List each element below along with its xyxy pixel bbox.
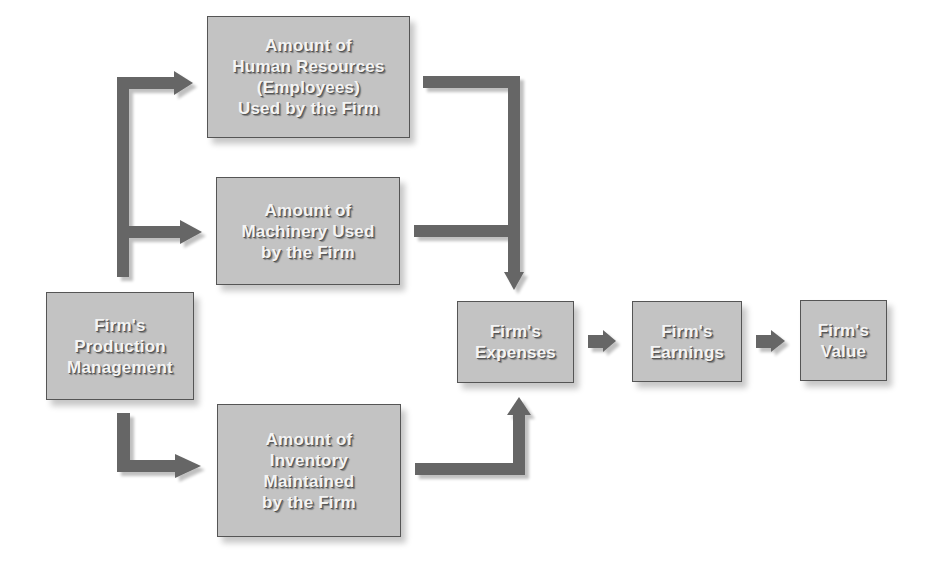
arrow-production-to-human-resources <box>117 71 193 277</box>
node-expenses: Firm's Expenses <box>457 301 574 383</box>
node-label-line: by the Firm <box>261 242 355 263</box>
node-inventory: Amount of Inventory Maintained by the Fi… <box>217 404 401 537</box>
arrow-production-to-inventory <box>117 413 201 478</box>
node-label-line: Production <box>74 336 166 357</box>
node-label-line: by the Firm <box>262 492 356 513</box>
arrow-earnings-to-value <box>756 330 785 352</box>
node-label-line: Maintained <box>264 471 355 492</box>
node-label-line: Earnings <box>650 342 724 363</box>
node-label-line: Machinery Used <box>241 221 374 242</box>
node-label-line: Value <box>821 341 866 362</box>
node-human-resources: Amount of Human Resources (Employees) Us… <box>207 16 410 138</box>
arrow-expenses-to-earnings <box>588 330 616 352</box>
arrow-human-resources-to-expenses <box>423 76 524 290</box>
node-label-line: Amount of <box>265 200 352 221</box>
node-label-line: Human Resources <box>232 56 384 77</box>
node-label-line: Firm's <box>818 320 870 341</box>
node-label-line: Firm's <box>94 315 146 336</box>
arrow-production-to-machinery <box>117 220 202 244</box>
node-production-management: Firm's Production Management <box>46 292 194 400</box>
connector-arrows <box>0 0 925 570</box>
node-earnings: Firm's Earnings <box>632 301 742 382</box>
node-label-line: Expenses <box>475 342 556 363</box>
node-label-line: Firm's <box>661 321 713 342</box>
node-label-line: Used by the Firm <box>238 98 379 119</box>
arrow-inventory-to-expenses <box>415 397 531 475</box>
node-label-line: (Employees) <box>257 77 360 98</box>
node-label-line: Amount of <box>266 429 353 450</box>
node-label-line: Inventory <box>270 450 348 471</box>
arrow-machinery-to-expenses <box>414 225 514 237</box>
node-label-line: Amount of <box>265 35 352 56</box>
node-label-line: Firm's <box>490 321 542 342</box>
node-value: Firm's Value <box>800 300 887 381</box>
node-label-line: Management <box>67 357 173 378</box>
flow-diagram: Firm's Production Management Amount of H… <box>0 0 925 570</box>
node-machinery: Amount of Machinery Used by the Firm <box>216 177 400 285</box>
